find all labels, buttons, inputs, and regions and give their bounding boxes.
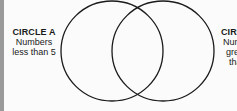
circle-a-title: CIRCLE A bbox=[8, 27, 60, 37]
circle-a-desc-line2: less than 5 bbox=[8, 47, 60, 57]
circle-b-desc-line3: than bbox=[221, 57, 237, 67]
circle-b-label: CIRCLE B Numbers greater than bbox=[221, 27, 237, 67]
circle-b-desc-line2: greater bbox=[221, 47, 237, 57]
circle-b-title: CIRCLE B bbox=[221, 27, 237, 37]
circle-b-desc-line1: Numbers bbox=[221, 37, 237, 47]
circle-a-label: CIRCLE A Numbers less than 5 bbox=[8, 27, 60, 57]
circle-a-desc-line1: Numbers bbox=[8, 37, 60, 47]
